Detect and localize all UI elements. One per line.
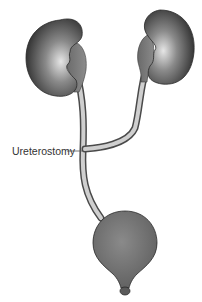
urinary-diagram: Ureterostomy bbox=[0, 0, 202, 302]
urethra bbox=[120, 287, 130, 295]
left-ureter bbox=[76, 70, 101, 218]
ureterostomy-label: Ureterostomy bbox=[12, 145, 76, 157]
bladder bbox=[93, 211, 157, 288]
right-ureter bbox=[85, 62, 148, 149]
